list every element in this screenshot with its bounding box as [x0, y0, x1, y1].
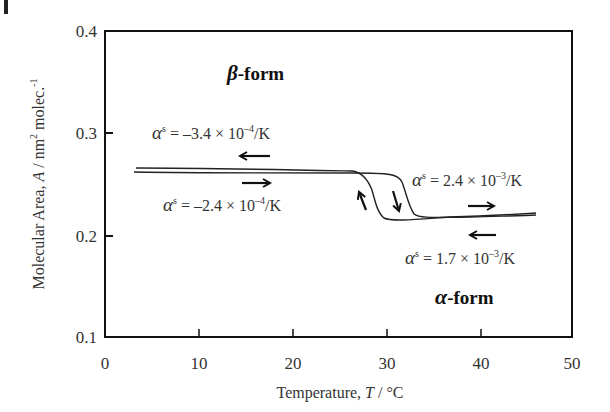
x-tick-30: 30 — [379, 354, 396, 373]
annotation-beta-cooling: αs = –3.4 × 10–4/K — [152, 122, 270, 143]
beta-form-label: β-form — [226, 61, 284, 85]
y-tick-0.4: 0.4 — [76, 22, 98, 41]
y-axis-title: Molecular Area, A / nm2 molec.-1 — [28, 78, 47, 289]
y-tick-0.1: 0.1 — [76, 328, 97, 347]
x-ticks — [199, 329, 481, 337]
alpha-form-label: α-form — [435, 284, 494, 309]
arrow-up-transition-icon — [359, 192, 366, 210]
x-tick-10: 10 — [191, 354, 208, 373]
y-tick-labels: 0.4 0.3 0.2 0.1 — [76, 22, 98, 347]
x-tick-labels: 0 10 20 30 40 50 — [101, 354, 581, 373]
annotation-beta-heating: αs = –2.4 × 10–4/K — [163, 194, 281, 215]
annotation-alpha-cooling: αs = 1.7 × 10–3/K — [405, 247, 515, 268]
x-tick-40: 40 — [473, 354, 490, 373]
x-tick-20: 20 — [285, 354, 302, 373]
x-tick-50: 50 — [564, 354, 581, 373]
y-ticks — [105, 133, 113, 236]
direction-arrows — [240, 156, 496, 235]
x-axis-title: Temperature, T / °C — [276, 384, 403, 402]
arrow-down-transition-icon — [393, 191, 399, 211]
y-tick-0.3: 0.3 — [76, 124, 97, 143]
chart: 0.4 0.3 0.2 0.1 0 10 20 30 40 50 Tempera… — [0, 0, 610, 412]
x-tick-0: 0 — [101, 354, 110, 373]
plot-frame — [105, 31, 572, 337]
annotation-alpha-heating: αs = 2.4 × 10–3/K — [412, 169, 522, 190]
y-tick-0.2: 0.2 — [76, 227, 97, 246]
